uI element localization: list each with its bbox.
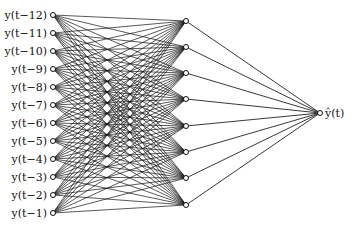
input-node-group: y(t−8): [11, 81, 56, 94]
hidden-node: [184, 45, 189, 50]
connection-edge: [186, 21, 320, 113]
input-label: y(t−11): [4, 27, 47, 40]
connection-edge: [53, 177, 186, 205]
connection-edge: [186, 113, 320, 126]
output-layer: ŷ(t): [318, 107, 345, 120]
input-node: [51, 193, 56, 198]
output-node: [318, 111, 323, 116]
input-node: [51, 103, 56, 108]
input-layer: y(t−12)y(t−11)y(t−10)y(t−9)y(t−8)y(t−7)y…: [4, 9, 56, 220]
input-label: y(t−4): [11, 153, 47, 166]
input-node: [51, 13, 56, 18]
input-node: [51, 175, 56, 180]
input-label: y(t−5): [11, 135, 47, 148]
hidden-node: [184, 71, 189, 76]
hidden-node: [184, 97, 189, 102]
input-node-group: y(t−6): [11, 117, 56, 130]
input-node-group: y(t−3): [11, 171, 56, 184]
input-node-group: y(t−4): [11, 153, 56, 166]
hidden-node: [184, 124, 189, 129]
input-label: y(t−7): [11, 99, 47, 112]
input-label: y(t−12): [4, 9, 47, 22]
input-label: y(t−2): [11, 189, 47, 202]
input-node: [51, 157, 56, 162]
connection-edge: [186, 73, 320, 113]
input-node-group: y(t−9): [11, 63, 56, 76]
input-node: [51, 211, 56, 216]
input-node-group: y(t−7): [11, 99, 56, 112]
hidden-layer: [184, 19, 189, 208]
input-label: y(t−8): [11, 81, 47, 94]
input-node-group: y(t−1): [11, 207, 56, 220]
hidden-node: [184, 150, 189, 155]
connection-edge: [53, 15, 186, 99]
input-node: [51, 85, 56, 90]
input-label: y(t−10): [4, 45, 47, 58]
hidden-node: [184, 203, 189, 208]
input-node-group: y(t−12): [4, 9, 56, 22]
connection-edge: [186, 99, 320, 113]
connection-edge: [186, 113, 320, 205]
hidden-node: [184, 176, 189, 181]
hidden-output-connections: [186, 21, 320, 205]
input-node-group: y(t−11): [4, 27, 56, 40]
input-node-group: y(t−2): [11, 189, 56, 202]
input-label: y(t−6): [11, 117, 47, 130]
input-label: y(t−9): [11, 63, 47, 76]
neural-network-diagram: y(t−12)y(t−11)y(t−10)y(t−9)y(t−8)y(t−7)y…: [0, 0, 354, 229]
input-node-group: y(t−10): [4, 45, 56, 58]
connection-edge: [186, 113, 320, 178]
connection-edge: [186, 113, 320, 152]
connection-edge: [53, 205, 186, 213]
input-node: [51, 49, 56, 54]
input-hidden-connections: [53, 15, 186, 213]
input-node-group: y(t−5): [11, 135, 56, 148]
input-node: [51, 121, 56, 126]
input-node: [51, 139, 56, 144]
connection-edge: [186, 47, 320, 113]
input-label: y(t−1): [11, 207, 47, 220]
input-node: [51, 31, 56, 36]
input-node: [51, 67, 56, 72]
connection-edge: [53, 123, 186, 152]
output-label: ŷ(t): [324, 107, 344, 120]
hidden-node: [184, 19, 189, 24]
input-label: y(t−3): [11, 171, 47, 184]
